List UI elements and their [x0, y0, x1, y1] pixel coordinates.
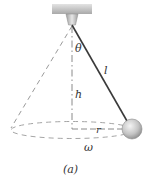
- height-label: h: [75, 88, 82, 101]
- pendulum-string: [72, 25, 127, 121]
- pendulum-bob: [122, 119, 142, 139]
- length-label: l: [104, 64, 108, 77]
- cone-left-edge: [11, 26, 72, 128]
- theta-label: θ: [75, 42, 82, 55]
- conical-pendulum-diagram: θ l h r ω (a): [0, 0, 153, 180]
- ceiling-support: [52, 4, 92, 14]
- pivot-mount: [66, 14, 78, 25]
- figure-caption: (a): [63, 163, 78, 176]
- angular-velocity-label: ω: [84, 141, 93, 154]
